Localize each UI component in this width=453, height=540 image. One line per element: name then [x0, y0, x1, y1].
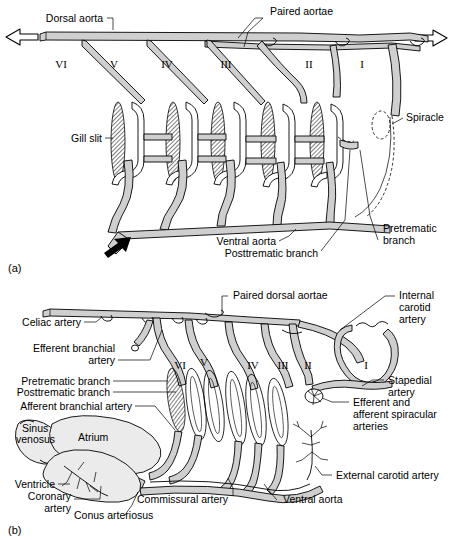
label-posttrematic-branch-b: Posttrematic branch	[17, 386, 111, 398]
label-efferent-branchial-l1: Efferent branchial	[33, 342, 115, 354]
arch-numeral-b-iv: IV	[247, 359, 259, 371]
label-conus-arteriosus: Conus arteriosus	[74, 509, 153, 521]
label-internal-carotid-l1: Internal	[399, 289, 434, 301]
arch-numeral-b-v: V	[200, 356, 208, 368]
vessel-end-cap	[132, 345, 139, 351]
label-posttrematic-branch: Posttrematic branch	[225, 247, 319, 259]
label-ventral-aorta: Ventral aorta	[216, 235, 276, 247]
label-external-carotid-artery: External carotid artery	[336, 469, 439, 481]
arch-numeral-b-vi: VI	[174, 359, 186, 371]
arch-numeral-iv: IV	[161, 58, 173, 70]
label-pretrematic-branch-line1: Pretrematic	[383, 222, 437, 234]
label-commissural-artery: Commissural artery	[137, 493, 229, 505]
label-spiracular-l2: afferent spiracular	[353, 408, 437, 420]
arch-numeral-iii: III	[221, 58, 232, 70]
arch-numeral-i: I	[360, 58, 364, 70]
label-coronary-l2: artery	[44, 502, 72, 514]
label-internal-carotid-l2: carotid	[399, 301, 431, 313]
label-paired-dorsal-aortae: Paired dorsal aortae	[233, 289, 328, 301]
arch-numeral-ii: II	[305, 58, 313, 70]
label-spiracle: Spiracle	[406, 111, 444, 123]
label-spiracular-l1: Efferent and	[353, 396, 410, 408]
label-sinus-venosus-l2: venosus	[16, 433, 55, 445]
anatomical-diagram: VI V IV III II I Dorsal aorta Paired aor…	[0, 0, 453, 540]
label-pretrematic-branch-line2: branch	[383, 234, 415, 246]
label-afferent-branchial-artery: Afferent branchial artery	[20, 400, 133, 412]
arch-numeral-v: V	[110, 58, 118, 70]
label-efferent-branchial-l2: artery	[88, 354, 116, 366]
arch-numeral-b-iii: III	[278, 359, 289, 371]
label-internal-carotid-l3: artery	[399, 313, 427, 325]
arch-numeral-vi: VI	[55, 58, 67, 70]
label-atrium: Atrium	[78, 431, 109, 443]
label-ventral-aorta-b: Ventral aorta	[283, 493, 343, 505]
figure-container: VI V IV III II I Dorsal aorta Paired aor…	[0, 0, 453, 540]
label-celiac-artery: Celiac artery	[22, 316, 82, 328]
label-ventricle: Ventricle	[15, 478, 55, 490]
label-stapedial-l1: Stapedial	[388, 374, 432, 386]
label-coronary-l1: Coronary	[28, 490, 72, 502]
label-dorsal-aorta: Dorsal aorta	[46, 12, 103, 24]
arch-numeral-b-ii: II	[304, 359, 312, 371]
label-paired-aortae: Paired aortae	[270, 5, 333, 17]
label-gill-slit: Gill slit	[71, 132, 102, 144]
panel-b-id: (b)	[8, 524, 21, 536]
label-spiracular-l3: arteries	[353, 420, 388, 432]
arch-numeral-b-i: I	[364, 359, 368, 371]
panel-a-id: (a)	[8, 262, 21, 274]
